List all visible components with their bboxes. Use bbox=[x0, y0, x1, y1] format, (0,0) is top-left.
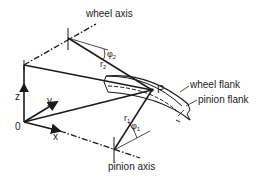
pinion-axis-line bbox=[60, 131, 140, 163]
r1-label: r1 bbox=[124, 113, 131, 124]
wheel-flank-label: wheel flank bbox=[189, 79, 241, 90]
phi2-label: φ2 bbox=[107, 49, 117, 60]
x-axis-label: x bbox=[53, 131, 58, 142]
pinion-flank-label: pinion flank bbox=[198, 94, 250, 105]
position-vectors bbox=[24, 38, 152, 150]
phi1-label: φ1 bbox=[131, 121, 141, 132]
gear-mesh-diagram: wheel axis pinion axis wheel flank pinio… bbox=[0, 0, 260, 184]
y-axis-label: y bbox=[47, 95, 52, 106]
diagram-canvas: wheel axis pinion axis wheel flank pinio… bbox=[0, 0, 260, 184]
origin-label: 0 bbox=[15, 121, 21, 132]
wheel-axis-line bbox=[24, 24, 96, 70]
wheel-axis-label: wheel axis bbox=[85, 8, 133, 19]
z-axis-label: z bbox=[15, 91, 20, 102]
point-p-label: P bbox=[157, 83, 164, 95]
x-axis bbox=[24, 122, 60, 131]
y-axis bbox=[24, 102, 57, 122]
pinion-axis-label: pinion axis bbox=[108, 161, 155, 172]
